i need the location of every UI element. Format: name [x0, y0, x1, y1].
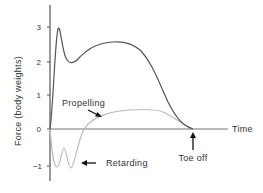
force-chart: 3 2 1 0 −1 Force (body weights) Time Pro… — [0, 0, 263, 193]
y-tick-label-3: 3 — [37, 23, 42, 32]
toe-off-arrow-icon — [190, 132, 196, 150]
toe-off-label: Toe off — [179, 153, 208, 163]
vertical-force-curve — [50, 28, 193, 129]
retarding-arrow-icon — [81, 160, 96, 166]
propelling-label: Propelling — [62, 98, 105, 108]
y-tick-label-2: 2 — [37, 58, 42, 67]
y-tick-label-neg1: −1 — [33, 162, 43, 171]
x-axis-label: Time — [232, 124, 253, 134]
retarding-label: Retarding — [106, 158, 148, 168]
y-tick-label-0: 0 — [37, 125, 42, 134]
propelling-arrow-icon — [88, 110, 102, 117]
y-tick-label-1: 1 — [37, 91, 42, 100]
y-axis-label: Force (body weights) — [13, 56, 23, 146]
